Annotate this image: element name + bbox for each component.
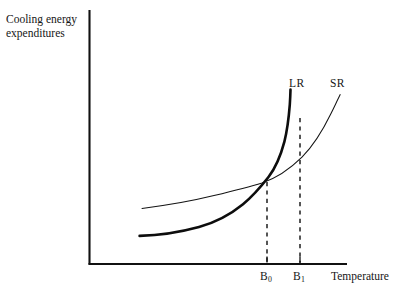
y-axis-label-line1: Cooling energy (6, 13, 77, 25)
chart-figure: Cooling energyexpenditures Temperature L… (0, 0, 404, 299)
x-tick-label-b1: B1 (293, 270, 305, 284)
x-tick-label-b1-base: B (293, 270, 301, 282)
x-tick-label-b0-subscript: 0 (268, 275, 272, 284)
x-tick-label-b0: B0 (260, 270, 272, 284)
curve-label-lr: LR (289, 77, 305, 91)
curve-label-sr: SR (330, 77, 345, 91)
x-tick-label-b0-base: B (260, 270, 268, 282)
curve-sr (142, 95, 340, 209)
curve-lr (140, 90, 291, 236)
plot-area (0, 0, 404, 299)
y-axis-label-line2: expenditures (6, 27, 65, 39)
y-axis-label: Cooling energyexpenditures (6, 13, 84, 40)
x-tick-label-b1-subscript: 1 (301, 275, 305, 284)
x-axis-label: Temperature (331, 270, 389, 284)
